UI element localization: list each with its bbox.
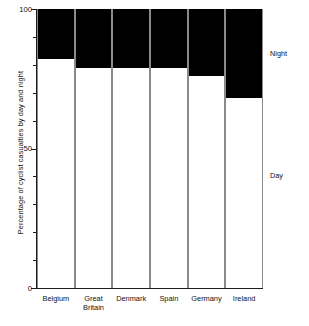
y-tick-minor-40 [33, 176, 36, 177]
bar-germany [188, 9, 226, 288]
category-label-ireland: Ireland [219, 294, 269, 303]
y-tick-minor-90 [33, 37, 36, 38]
y-tick-minor-20 [33, 232, 36, 233]
bar-great-britain [75, 9, 113, 288]
bar-segment-day [38, 59, 74, 288]
category-label-line1: Ireland [219, 294, 269, 303]
y-tick-minor-70 [33, 93, 36, 94]
y-tick-label-0: 0 [0, 284, 32, 293]
x-axis-line [36, 288, 263, 289]
y-tick-minor-80 [33, 65, 36, 66]
series-label-night: Night [270, 49, 287, 58]
bar-segment-night [38, 9, 74, 59]
bar-segment-day [226, 98, 262, 288]
bar-segment-day [151, 68, 187, 288]
y-tick-minor-10 [33, 260, 36, 261]
bar-segment-night [226, 9, 262, 98]
bar-belgium [37, 9, 75, 288]
bar-segment-night [151, 9, 187, 68]
bar-segment-night [113, 9, 149, 68]
bar-segment-day [189, 76, 225, 288]
bar-denmark [112, 9, 150, 288]
plot-area [37, 9, 263, 288]
stacked-bar-chart: Percentage of cyclist casualties by day … [0, 0, 309, 326]
y-tick-minor-30 [33, 204, 36, 205]
category-label-line2: Britain [69, 303, 119, 312]
y-tick-label-100: 100 [0, 5, 32, 14]
y-tick-minor-60 [33, 121, 36, 122]
bar-segment-night [76, 9, 112, 68]
bar-spain [150, 9, 188, 288]
y-tick-label-50: 50 [0, 144, 32, 153]
bar-ireland [225, 9, 263, 288]
series-label-day: Day [270, 171, 283, 180]
bar-segment-day [113, 68, 149, 288]
bar-segment-day [76, 68, 112, 288]
bar-segment-night [189, 9, 225, 76]
